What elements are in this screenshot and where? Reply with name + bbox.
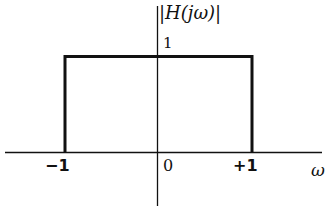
tick-label-plus-one: +1	[233, 158, 258, 174]
tick-label-minus-one: −1	[45, 158, 70, 174]
pulse-outline	[65, 57, 252, 153]
y-axis-label: |H(jω)|	[159, 4, 221, 22]
diagram-canvas: |H(jω)| 1 −1 0 +1 ω	[0, 0, 331, 206]
diagram-lines	[0, 0, 331, 206]
tick-label-origin: 0	[163, 158, 173, 174]
tick-label-height: 1	[163, 36, 173, 51]
abs-bar-right: |	[215, 2, 221, 23]
y-axis-label-text: H(jω)	[165, 2, 215, 23]
x-axis-label: ω	[311, 162, 325, 179]
